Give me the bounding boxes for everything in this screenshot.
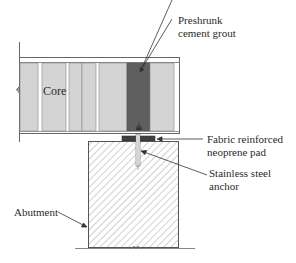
core-cell bbox=[69, 63, 82, 131]
pad-label-line2: neoprene pad bbox=[207, 146, 266, 159]
abutment bbox=[89, 142, 179, 248]
core-cell bbox=[20, 63, 38, 131]
core-label: Core bbox=[43, 85, 66, 98]
bearing-detail-drawing bbox=[0, 0, 296, 263]
abutment-label: Abutment bbox=[14, 206, 58, 219]
core-cell bbox=[99, 63, 127, 131]
grout-label-line1: Preshrunk bbox=[178, 14, 223, 27]
core-cell bbox=[150, 63, 174, 131]
grout-cell bbox=[127, 63, 150, 131]
pad-label-line1: Fabric reinforced bbox=[207, 133, 283, 146]
stainless-steel-anchor bbox=[136, 134, 140, 170]
core-cell bbox=[82, 63, 96, 131]
anchor-label-line2: anchor bbox=[209, 180, 239, 193]
grout-label-line2: cement grout bbox=[178, 27, 236, 40]
anchor-label-line1: Stainless steel bbox=[209, 167, 271, 180]
